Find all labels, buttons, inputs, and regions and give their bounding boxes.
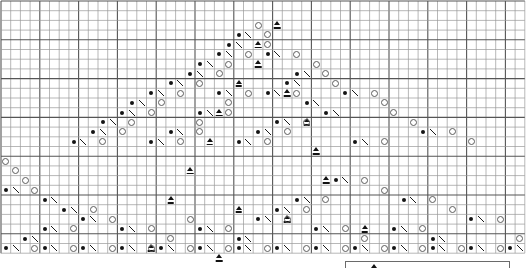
repeat-bracket — [345, 261, 510, 268]
repeat-bracket-tick-left — [345, 261, 346, 268]
knitting-chart — [0, 0, 526, 268]
repeat-bracket-tick-right — [509, 261, 510, 268]
chart-grid — [0, 0, 526, 268]
grid-lines — [0, 0, 526, 268]
repeat-bracket-bar — [345, 261, 510, 262]
